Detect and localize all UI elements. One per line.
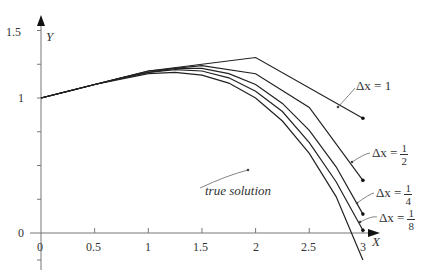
x-tick-3: 3 — [360, 240, 366, 255]
annotation-dx-half: Δx =12 — [372, 142, 408, 167]
y-axis-label: Y — [46, 29, 53, 45]
endpoint-dot — [361, 116, 365, 120]
x-tick-2: 2 — [253, 240, 259, 255]
annotation-true-solution: true solution — [205, 183, 271, 199]
leader-arrow — [338, 88, 355, 107]
plot-area — [0, 0, 432, 280]
y-tick-0: 0 — [18, 226, 24, 241]
x-tick-1: 1 — [145, 240, 151, 255]
leader-arrow — [357, 193, 374, 203]
endpoint-dot — [361, 179, 365, 183]
leader-arrow — [360, 217, 377, 222]
x-tick-0: 0 — [37, 240, 43, 255]
y-axis-arrow-icon — [37, 15, 45, 26]
annotation-dx-quarter: Δx =14 — [376, 182, 412, 207]
series-line — [41, 58, 363, 119]
endpoint-dot — [361, 212, 365, 216]
annotation-dx-eighth: Δx =18 — [379, 207, 415, 232]
x-tick-1-5: 1.5 — [193, 240, 208, 255]
leader-arrow — [352, 153, 370, 162]
annotation-dx-1: Δx = 1 — [356, 78, 391, 94]
x-axis-label: X — [372, 234, 380, 250]
series-line — [41, 70, 363, 231]
y-tick-1: 1 — [18, 91, 24, 106]
x-tick-0-5: 0.5 — [86, 240, 101, 255]
series-line — [41, 68, 363, 214]
x-tick-2-5: 2.5 — [301, 240, 316, 255]
y-tick-1-5: 1.5 — [6, 25, 21, 40]
chart: 1.5 1 0 Y X 0 0.5 1 1.5 2 2.5 3 Δx = 1 Δ… — [0, 0, 432, 280]
endpoint-dot — [361, 229, 365, 233]
